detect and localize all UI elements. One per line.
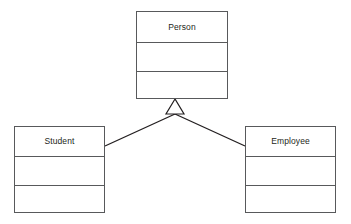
class-name-label-person: Person — [168, 23, 196, 32]
class-name-compartment-student: Student — [15, 127, 104, 157]
class-operations-compartment-person[interactable] — [137, 72, 227, 98]
class-name-compartment-employee: Employee — [246, 127, 335, 157]
uml-class-person[interactable]: Person — [136, 11, 228, 99]
class-operations-compartment-student[interactable] — [15, 186, 104, 212]
class-operations-compartment-employee[interactable] — [246, 186, 335, 212]
generalization-edge-student[interactable] — [105, 114, 175, 146]
class-attributes-compartment-employee[interactable] — [246, 157, 335, 186]
generalization-arrowhead-icon — [166, 99, 184, 114]
class-attributes-compartment-person[interactable] — [137, 43, 227, 72]
generalization-edge-employee[interactable] — [175, 114, 245, 146]
uml-class-employee[interactable]: Employee — [245, 126, 336, 213]
uml-class-diagram-canvas: Person Student Employee — [0, 0, 351, 224]
class-name-label-employee: Employee — [271, 137, 310, 146]
class-name-compartment-person: Person — [137, 12, 227, 43]
class-attributes-compartment-student[interactable] — [15, 157, 104, 186]
uml-class-student[interactable]: Student — [14, 126, 105, 213]
class-name-label-student: Student — [44, 137, 74, 146]
